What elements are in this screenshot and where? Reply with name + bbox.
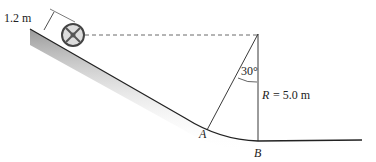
radius-value: = 5.0 m <box>270 88 311 102</box>
wheel-icon <box>62 24 84 46</box>
angle-arc <box>238 78 257 82</box>
point-a-label: A <box>198 127 207 141</box>
radius-var: R <box>261 88 270 102</box>
angle-label: 30° <box>241 64 258 78</box>
slope-surface <box>30 29 362 141</box>
height-label: 1.2 m <box>4 11 32 25</box>
dimension-line <box>44 12 54 30</box>
ground-shading <box>30 29 362 152</box>
ramp-diagram: 1.2 m 30° R = 5.0 m A B <box>0 0 376 162</box>
point-b-label: B <box>254 146 262 160</box>
